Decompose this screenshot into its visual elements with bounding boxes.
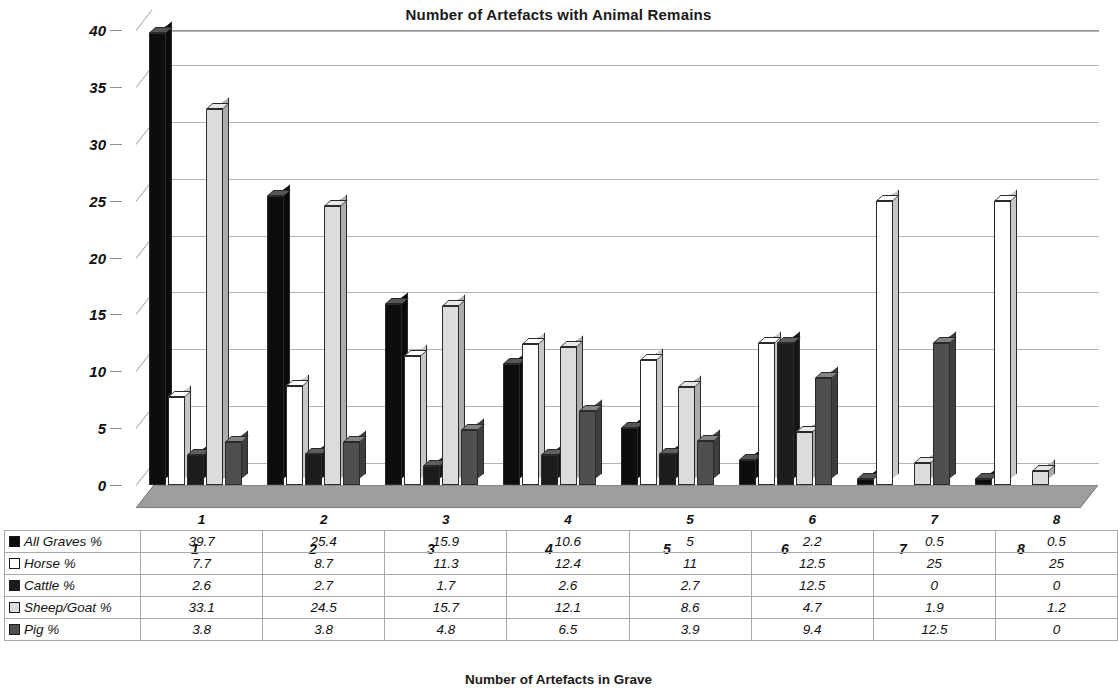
bar-cattle-1 <box>187 455 204 485</box>
y-axis-tick-mark <box>110 314 122 315</box>
bar-front-face <box>343 442 360 485</box>
table-cell: 24.5 <box>263 597 385 619</box>
table-cell: 11.3 <box>385 553 507 575</box>
bar-sheep-goat-7 <box>914 463 931 485</box>
table-column-header: 6 <box>751 508 873 531</box>
bar-front-face <box>815 378 832 485</box>
y-axis-tick-label: 15 <box>89 306 106 323</box>
bar-pig-1 <box>225 442 242 485</box>
bar-all-graves-3 <box>385 304 402 485</box>
bar-all-graves-1 <box>149 33 166 485</box>
table-cell: 12.4 <box>507 553 629 575</box>
legend-label: Cattle % <box>24 578 75 593</box>
bar-horse-7 <box>876 201 893 485</box>
bar-front-face <box>442 306 459 485</box>
bar-front-face <box>933 343 950 485</box>
bar-side-face <box>420 345 427 479</box>
bar-side-face <box>595 400 602 479</box>
bar-cattle-6 <box>777 343 794 485</box>
table-cell: 10.6 <box>507 531 629 553</box>
table-cell: 7.7 <box>141 553 263 575</box>
x-axis-title: Number of Artefacts in Grave <box>0 672 1117 687</box>
bar-group <box>621 30 714 508</box>
y-axis-tick-label: 35 <box>89 78 106 95</box>
table-corner-cell <box>5 508 141 531</box>
legend-swatch-icon <box>9 558 20 569</box>
bar-horse-6 <box>758 343 775 485</box>
table-row-header: Horse % <box>5 553 141 575</box>
bar-all-graves-5 <box>621 428 638 485</box>
table-cell: 1.7 <box>385 575 507 597</box>
table-cell: 2.6 <box>507 575 629 597</box>
bar-front-face <box>697 441 714 485</box>
table-row: Cattle %2.62.71.72.62.712.500 <box>5 575 1118 597</box>
table-cell: 33.1 <box>141 597 263 619</box>
table-cell: 0.5 <box>995 531 1117 553</box>
table-column-header: 7 <box>873 508 995 531</box>
table-row-header: Cattle % <box>5 575 141 597</box>
bar-front-face <box>206 109 223 486</box>
table-row: Pig %3.83.84.86.53.99.412.50 <box>5 619 1118 641</box>
bar-all-graves-4 <box>503 364 520 485</box>
table-cell: 3.8 <box>263 619 385 641</box>
table-row-header: All Graves % <box>5 531 141 553</box>
chart-title: Number of Artefacts with Animal Remains <box>0 6 1117 23</box>
table-cell: 12.5 <box>751 553 873 575</box>
table-column-header: 1 <box>141 508 263 531</box>
bar-sheep-goat-2 <box>324 206 341 485</box>
legend-swatch-icon <box>9 536 20 547</box>
bar-all-graves-2 <box>267 196 284 485</box>
table-cell: 0.5 <box>873 531 995 553</box>
bar-front-face <box>876 201 893 485</box>
bar-pig-6 <box>815 378 832 485</box>
table-row-header: Pig % <box>5 619 141 641</box>
bar-front-face <box>560 347 577 485</box>
bar-front-face <box>659 454 676 485</box>
bar-front-face <box>225 442 242 485</box>
bar-side-face <box>222 97 229 479</box>
bar-cattle-4 <box>541 455 558 485</box>
table-column-header: 3 <box>385 508 507 531</box>
bar-sheep-goat-1 <box>206 109 223 486</box>
y-axis-tick-label: 30 <box>89 135 106 152</box>
bar-front-face <box>777 343 794 485</box>
bar-front-face <box>541 455 558 485</box>
bar-group <box>385 30 478 508</box>
y-axis-tick-mark <box>110 485 122 486</box>
bar-pig-3 <box>461 430 478 485</box>
bar-front-face <box>857 479 874 485</box>
bar-horse-4 <box>522 344 539 485</box>
legend-swatch-icon <box>9 580 20 591</box>
bar-front-face <box>404 356 421 485</box>
legend-label: Horse % <box>24 556 76 571</box>
bar-sheep-goat-5 <box>678 387 695 485</box>
table-column-header: 5 <box>629 508 751 531</box>
bar-front-face <box>621 428 638 485</box>
bar-all-graves-6 <box>739 460 756 485</box>
bar-front-face <box>640 360 657 485</box>
table-cell: 12.5 <box>751 575 873 597</box>
table-cell: 4.8 <box>385 619 507 641</box>
bar-horse-5 <box>640 360 657 485</box>
table-cell: 2.7 <box>263 575 385 597</box>
bar-horse-8 <box>994 201 1011 485</box>
bar-side-face <box>1010 189 1017 479</box>
table-cell: 15.9 <box>385 531 507 553</box>
bar-cattle-5 <box>659 454 676 485</box>
table-cell: 2.2 <box>751 531 873 553</box>
bar-sheep-goat-4 <box>560 347 577 485</box>
table-cell: 39.7 <box>141 531 263 553</box>
data-table-body: 12345678All Graves %39.725.415.910.652.2… <box>5 508 1118 641</box>
bar-front-face <box>324 206 341 485</box>
y-axis-tick-label: 0 <box>98 477 106 494</box>
table-cell: 12.5 <box>873 619 995 641</box>
table-cell: 0 <box>995 575 1117 597</box>
table-cell: 25.4 <box>263 531 385 553</box>
legend-swatch-icon <box>9 602 20 613</box>
bar-horse-2 <box>286 386 303 485</box>
y-axis-tick-label: 40 <box>89 22 106 39</box>
y-axis-tick-mark <box>110 30 122 31</box>
table-cell: 12.1 <box>507 597 629 619</box>
bar-horse-1 <box>168 397 185 485</box>
table-cell: 0 <box>995 619 1117 641</box>
